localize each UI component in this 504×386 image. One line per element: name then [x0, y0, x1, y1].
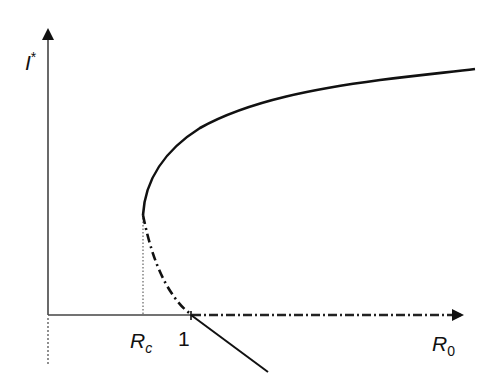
negative-branch — [191, 315, 268, 372]
x-axis-label-main: R — [432, 332, 447, 355]
bifurcation-diagram — [0, 0, 504, 386]
rc-label-sub: c — [145, 340, 152, 356]
y-axis-label-main: I — [25, 51, 31, 74]
unstable-endemic-branch — [143, 215, 191, 314]
y-axis-label-sup: * — [31, 49, 36, 65]
stable-endemic-branch — [143, 69, 475, 215]
x-axis-label-sub: 0 — [447, 343, 455, 359]
rc-label: Rc — [130, 330, 152, 351]
rc-label-main: R — [130, 329, 145, 352]
y-axis-label: I* — [25, 52, 36, 73]
x-axis-label: R0 — [432, 333, 455, 354]
one-label: 1 — [178, 328, 190, 349]
